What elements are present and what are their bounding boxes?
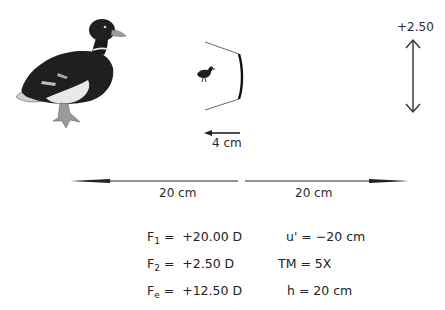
lens-power-label: +2.50 bbox=[397, 20, 434, 34]
right-distance-label: 20 cm bbox=[295, 186, 332, 200]
equation-tm: TM = 5X bbox=[278, 256, 331, 271]
equation-u-prime: u' = −20 cm bbox=[286, 229, 365, 244]
small-duck-icon bbox=[197, 67, 216, 83]
left-distance-arrow bbox=[70, 179, 238, 183]
mallard-duck-icon bbox=[16, 19, 126, 128]
equation-f2: F2 = +2.50 D bbox=[147, 256, 234, 273]
concave-lens-icon bbox=[205, 42, 242, 110]
vertical-double-arrow bbox=[406, 40, 420, 112]
short-arrow-label: 4 cm bbox=[212, 136, 242, 150]
right-distance-arrow bbox=[245, 179, 409, 183]
equation-f1: F1 = +20.00 D bbox=[147, 229, 242, 246]
equation-fe: Fe = +12.50 D bbox=[147, 283, 242, 300]
equation-h: h = 20 cm bbox=[287, 283, 352, 298]
left-distance-label: 20 cm bbox=[159, 186, 196, 200]
